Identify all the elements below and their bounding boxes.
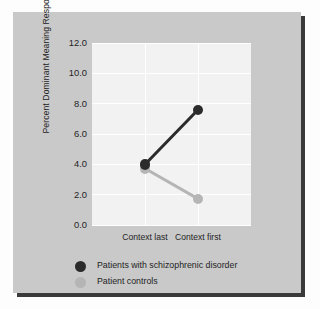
grid-line-horizontal <box>92 73 251 74</box>
chart-panel: 0.02.04.06.08.010.012.0 Context lastCont… <box>13 12 301 293</box>
series-line-segment <box>144 109 199 166</box>
legend-marker-icon <box>75 277 86 288</box>
x-tick-label: Context first <box>153 232 243 242</box>
data-point-marker <box>193 105 203 115</box>
y-tick-label: 2.0 <box>57 190 87 199</box>
grid-line-horizontal <box>92 225 251 226</box>
grid-line-horizontal <box>92 103 251 104</box>
series-line-segment <box>144 167 199 200</box>
y-tick-label: 10.0 <box>57 68 87 77</box>
legend-item-controls: Patient controls <box>75 274 303 290</box>
legend-marker-icon <box>75 261 86 272</box>
y-tick-label: 4.0 <box>57 159 87 168</box>
grid-line-horizontal <box>92 194 251 195</box>
chart-legend: Patients with schizophrenic disorder Pat… <box>75 258 303 290</box>
figure-canvas: 0.02.04.06.08.010.012.0 Context lastCont… <box>0 0 320 309</box>
y-tick-label: 0.0 <box>57 220 87 229</box>
y-tick-label: 12.0 <box>57 38 87 47</box>
legend-item-label: Patient controls <box>97 276 158 286</box>
grid-line-horizontal <box>92 164 251 165</box>
legend-item-schizophrenic: Patients with schizophrenic disorder <box>75 258 303 274</box>
grid-line-vertical <box>145 43 146 225</box>
grid-line-horizontal <box>92 43 251 44</box>
y-tick-label: 8.0 <box>57 99 87 108</box>
y-axis-label: Percent Dominant Meaning Responses <box>41 0 51 142</box>
y-tick-label: 6.0 <box>57 129 87 138</box>
data-point-marker <box>140 159 150 169</box>
plot-area: 0.02.04.06.08.010.012.0 Context lastCont… <box>92 43 251 225</box>
legend-item-label: Patients with schizophrenic disorder <box>97 260 237 270</box>
data-point-marker <box>193 194 203 204</box>
